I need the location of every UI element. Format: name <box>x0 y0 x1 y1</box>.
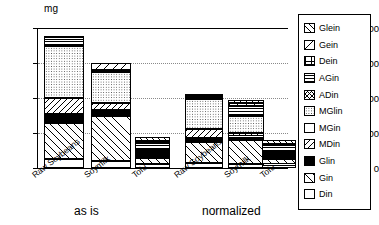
legend-item-Gein[interactable]: Gein <box>304 37 370 54</box>
bar-segment-Glin[interactable] <box>228 137 264 140</box>
bar-segment-MGlin[interactable] <box>91 72 131 103</box>
legend-item-AGin[interactable]: AGin <box>304 70 370 87</box>
legend-swatch-Gein <box>304 40 315 50</box>
legend-label-Din: Din <box>319 189 333 199</box>
legend-item-Din[interactable]: Din <box>304 186 370 203</box>
legend-swatch-ADin <box>304 90 315 100</box>
bar-segment-MGlin[interactable] <box>185 99 223 128</box>
legend-label-ADin: ADin <box>319 90 339 100</box>
legend-label-AGin: AGin <box>319 73 339 83</box>
bar-segment-Glin[interactable] <box>44 114 84 123</box>
legend-label-Glin: Glin <box>319 156 335 166</box>
legend-item-Glein[interactable]: Glein <box>304 20 370 37</box>
bar-segment-MDin[interactable] <box>228 133 264 137</box>
legend-swatch-Gin <box>304 173 315 183</box>
bar-segment-Glein[interactable] <box>185 94 223 96</box>
legend-item-Glin[interactable]: Glin <box>304 153 370 170</box>
legend-swatch-Glin <box>304 156 315 166</box>
legend-item-MGlin[interactable]: MGlin <box>304 103 370 120</box>
legend-swatch-Din <box>304 189 315 199</box>
legend-label-MDin: MDin <box>319 139 340 149</box>
legend-item-Gin[interactable]: Gin <box>304 169 370 186</box>
legend-swatch-AGin <box>304 73 315 83</box>
legend-label-Gein: Gein <box>319 40 338 50</box>
legend-swatch-MGlin <box>304 106 315 116</box>
bar-segment-Glein[interactable] <box>135 137 170 141</box>
bar-stack[interactable] <box>91 0 131 225</box>
y-tick-mark-300 <box>33 63 38 64</box>
legend-item-Dein[interactable]: Dein <box>304 53 370 70</box>
bar-segment-AGin[interactable] <box>44 39 84 46</box>
legend-label-Gin: Gin <box>319 173 333 183</box>
bar-segment-Gein[interactable] <box>228 103 264 107</box>
bar-segment-AGin[interactable] <box>228 106 264 116</box>
bar-segment-AGin[interactable] <box>135 143 170 150</box>
bar-segment-Glin[interactable] <box>262 155 296 158</box>
legend-label-Glein: Glein <box>319 23 340 33</box>
bar-stack[interactable] <box>44 0 84 225</box>
group-label-as-is: as is <box>74 204 99 218</box>
y-tick-mark-100 <box>33 133 38 134</box>
bar-segment-MGlin[interactable] <box>228 116 264 133</box>
bar-segment-Dein[interactable] <box>135 141 170 143</box>
bar-segment-Gein[interactable] <box>91 63 131 70</box>
bar-segment-Glin[interactable] <box>135 154 170 158</box>
bar-segment-AGin[interactable] <box>91 70 131 73</box>
bar-segment-MGlin[interactable] <box>44 46 84 99</box>
legend-swatch-Dein <box>304 56 315 66</box>
bar-segment-MGlin[interactable] <box>135 150 170 152</box>
group-label-normalized: normalized <box>202 204 261 218</box>
bar-stack[interactable] <box>185 0 223 225</box>
legend-label-Dein: Dein <box>319 56 338 66</box>
bar-segment-Dein[interactable] <box>262 144 296 146</box>
bar-stack[interactable] <box>262 0 296 225</box>
bar-segment-MDin[interactable] <box>91 103 131 110</box>
bar-segment-AGin[interactable] <box>262 145 296 151</box>
bar-segment-MGlin[interactable] <box>262 152 296 154</box>
y-tick-mark-400 <box>33 28 38 29</box>
legend-box: GleinGeinDeinAGinADinMGlinMGinMDinGlinGi… <box>298 14 371 210</box>
legend-swatch-MGin <box>304 123 315 133</box>
legend-swatch-Glein <box>304 23 315 33</box>
chart-root: mg 0100200300400 Raw SoybeansSoymilkTofu… <box>0 0 379 225</box>
legend-swatch-MDin <box>304 139 315 149</box>
legend-item-MDin[interactable]: MDin <box>304 136 370 153</box>
legend-label-MGlin: MGlin <box>319 106 343 116</box>
bar-segment-Gin[interactable] <box>91 116 131 161</box>
legend-label-MGin: MGin <box>319 123 341 133</box>
bar-stack[interactable] <box>135 0 170 225</box>
bar-segment-MDin[interactable] <box>262 154 296 156</box>
bar-segment-Glin[interactable] <box>91 110 131 116</box>
legend-item-MGin[interactable]: MGin <box>304 120 370 137</box>
bar-segment-Glein[interactable] <box>228 100 264 103</box>
bar-stack[interactable] <box>228 0 264 225</box>
bar-segment-MDin[interactable] <box>135 152 170 154</box>
y-tick-mark-200 <box>33 98 38 99</box>
legend-item-ADin[interactable]: ADin <box>304 86 370 103</box>
bar-segment-Glein[interactable] <box>262 140 296 144</box>
bar-segment-Glein[interactable] <box>44 36 84 39</box>
bar-segment-MDin[interactable] <box>44 98 84 114</box>
